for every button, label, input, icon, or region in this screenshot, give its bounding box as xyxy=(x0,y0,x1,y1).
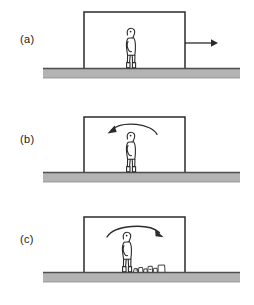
debris-pile-c xyxy=(134,265,166,272)
motion-arrow-a xyxy=(185,39,218,47)
person-figure-c xyxy=(122,232,131,272)
panel-c-illustration xyxy=(0,200,254,300)
ground-strip-a xyxy=(43,68,240,78)
panel-b: (b) xyxy=(0,100,254,200)
physics-figure: (a) xyxy=(0,0,254,305)
panel-a-illustration xyxy=(0,0,254,100)
panel-c: (c) xyxy=(0,200,254,300)
panel-a: (a) xyxy=(0,0,254,100)
ground-strip-b xyxy=(43,172,240,182)
ground-strip-c xyxy=(43,272,240,282)
panel-b-illustration xyxy=(0,100,254,200)
frame-outline-c xyxy=(84,217,185,272)
person-figure-b xyxy=(126,132,135,172)
rotation-arrow-c xyxy=(107,226,164,237)
person-figure-a xyxy=(126,28,135,68)
